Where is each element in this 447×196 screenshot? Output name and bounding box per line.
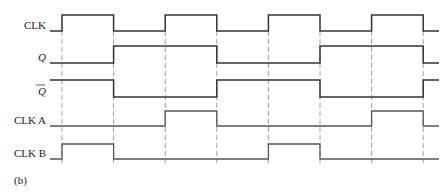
signal-label-clka: CLK A bbox=[14, 114, 46, 126]
waveform-q bbox=[50, 46, 439, 63]
waveform-qbar bbox=[50, 80, 439, 97]
figure-label: (b) bbox=[14, 174, 27, 187]
timing-diagram: CLKQQCLK ACLK B (b) bbox=[0, 0, 447, 196]
signal-label-clkb: CLK B bbox=[14, 147, 46, 159]
signal-label-q: Q bbox=[38, 51, 46, 63]
signal-label-clk: CLK bbox=[24, 19, 46, 31]
signal-clka: CLK A bbox=[14, 111, 439, 126]
waveform-clka bbox=[50, 111, 439, 126]
signal-clk: CLK bbox=[24, 15, 439, 31]
signal-q: Q bbox=[38, 46, 439, 63]
signal-qbar: Q bbox=[36, 80, 439, 97]
signal-clkb: CLK B bbox=[14, 144, 439, 159]
waveform-clk bbox=[50, 15, 439, 31]
waveform-clkb bbox=[50, 144, 439, 159]
signal-label-qbar: Q bbox=[38, 85, 46, 97]
